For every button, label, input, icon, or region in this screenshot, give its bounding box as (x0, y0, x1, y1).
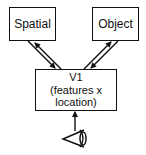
spatial-node: Spatial (9, 7, 56, 41)
v1-subtitle-line1: (features x (50, 84, 102, 97)
spatial-label: Spatial (14, 17, 51, 31)
object-label: Object (98, 17, 133, 31)
v1-subtitle-line2: location) (55, 96, 97, 109)
eye-icon (63, 130, 86, 147)
arrow-object-to-v1 (91, 41, 118, 68)
arrow-v1-to-spatial (35, 43, 61, 69)
arrow-spatial-to-v1 (28, 41, 55, 68)
arrow-v1-to-object (84, 42, 111, 69)
object-node: Object (92, 7, 139, 41)
v1-node: V1 (features x location) (35, 69, 117, 111)
v1-title: V1 (69, 71, 82, 84)
